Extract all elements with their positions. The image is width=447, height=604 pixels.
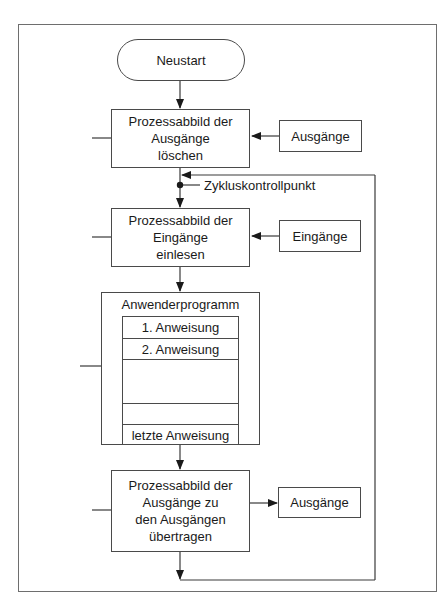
instruction-row: 2. Anweisung bbox=[123, 338, 238, 359]
input-outputs-label: Ausgänge bbox=[291, 128, 350, 145]
instruction-row bbox=[123, 359, 238, 403]
step-clear-outputs: Prozessabbild der Ausgänge löschen bbox=[111, 109, 250, 168]
step-write-outputs: Prozessabbild der Ausgänge zu den Ausgän… bbox=[111, 470, 250, 552]
instruction-label: letzte Anweisung bbox=[132, 427, 230, 444]
input-outputs-box: Ausgänge bbox=[279, 120, 362, 152]
cycle-checkpoint-dot bbox=[177, 182, 183, 188]
output-outputs-label: Ausgänge bbox=[290, 494, 349, 511]
start-label: Neustart bbox=[156, 52, 205, 69]
input-inputs-box: Eingänge bbox=[279, 220, 361, 252]
cycle-checkpoint-label: Zykluskontrollpunkt bbox=[204, 178, 315, 193]
input-inputs-label: Eingänge bbox=[293, 228, 348, 245]
instruction-row bbox=[123, 403, 238, 424]
step-write-outputs-label: Prozessabbild der Ausgänge zu den Ausgän… bbox=[128, 477, 232, 545]
instruction-list: 1. Anweisung 2. Anweisung letzte Anweisu… bbox=[122, 316, 239, 445]
step-clear-outputs-label: Prozessabbild der Ausgänge löschen bbox=[128, 113, 232, 164]
step-user-program: Anwenderprogramm 1. Anweisung 2. Anweisu… bbox=[101, 292, 260, 445]
instruction-row: 1. Anweisung bbox=[123, 316, 238, 338]
start-node: Neustart bbox=[117, 39, 245, 81]
instruction-row: letzte Anweisung bbox=[123, 424, 238, 445]
instruction-label: 1. Anweisung bbox=[142, 319, 219, 336]
output-outputs-box: Ausgänge bbox=[278, 487, 361, 518]
user-program-title: Anwenderprogramm bbox=[102, 297, 259, 312]
instruction-label: 2. Anweisung bbox=[142, 341, 219, 358]
step-read-inputs-label: Prozessabbild der Eingänge einlesen bbox=[128, 212, 232, 263]
step-read-inputs: Prozessabbild der Eingänge einlesen bbox=[111, 208, 250, 267]
